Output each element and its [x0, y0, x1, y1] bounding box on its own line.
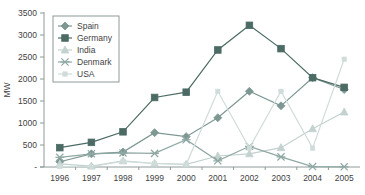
marker-dot: [279, 89, 283, 93]
chart-canvas: 350030002500200015001000500-MW1996199719…: [0, 0, 365, 195]
marker-square: [341, 84, 348, 91]
marker-square: [278, 45, 285, 52]
y-tick-label: -: [34, 162, 37, 172]
y-tick-label: 1500: [18, 96, 37, 106]
marker-triangle: [277, 144, 285, 151]
marker-square: [62, 35, 69, 42]
marker-dot: [216, 89, 220, 93]
marker-dot: [121, 159, 125, 163]
marker-square: [88, 139, 95, 146]
marker-square: [215, 47, 222, 54]
legend-item-germany[interactable]: Germany: [58, 33, 113, 43]
legend-label-usa: USA: [77, 69, 95, 79]
y-tick-label: 3500: [18, 8, 37, 18]
legend-label-denmark: Denmark: [77, 57, 112, 67]
marker-diamond: [151, 129, 159, 137]
legend: SpainGermanyIndiaDenmarkUSA: [53, 16, 119, 82]
marker-dot: [58, 164, 62, 168]
y-axis-title: MW: [2, 82, 12, 97]
x-tick-label: 2000: [177, 173, 196, 183]
x-tick-label: 2001: [208, 173, 227, 183]
legend-label-india: India: [77, 45, 96, 55]
series-india: [56, 108, 348, 169]
y-tick-label: 2000: [18, 74, 37, 84]
x-tick-label: 1996: [50, 173, 69, 183]
marker-square: [151, 94, 158, 101]
x-tick-label: 2002: [240, 173, 259, 183]
marker-dot: [247, 146, 251, 150]
marker-dot: [63, 72, 67, 76]
x-tick-label: 2003: [272, 173, 291, 183]
marker-square: [57, 144, 64, 151]
y-tick-label: 3000: [18, 30, 37, 40]
series-line-spain: [60, 78, 344, 162]
legend-label-germany: Germany: [77, 33, 113, 43]
marker-square: [120, 129, 127, 136]
x-tick-label: 1999: [145, 173, 164, 183]
marker-triangle: [340, 108, 348, 115]
marker-diamond: [119, 148, 127, 156]
y-tick-label: 1000: [18, 118, 37, 128]
marker-triangle: [309, 125, 317, 132]
marker-square: [183, 89, 190, 96]
x-tick-label: 2005: [335, 173, 354, 183]
marker-dot: [184, 162, 188, 166]
marker-dot: [152, 161, 156, 165]
marker-square: [309, 74, 316, 81]
marker-square: [246, 22, 253, 29]
wind-capacity-line-chart: 350030002500200015001000500-MW1996199719…: [0, 0, 365, 195]
marker-dot: [342, 57, 346, 61]
y-tick-label: 2500: [18, 52, 37, 62]
y-tick-label: 500: [23, 140, 37, 150]
legend-item-spain[interactable]: Spain: [58, 21, 99, 31]
marker-dot: [310, 146, 314, 150]
series-spain: [56, 74, 348, 166]
x-tick-label: 2004: [303, 173, 322, 183]
legend-label-spain: Spain: [77, 21, 99, 31]
x-tick-label: 1998: [114, 173, 133, 183]
marker-dot: [89, 164, 93, 168]
series-line-denmark: [60, 140, 344, 167]
x-tick-label: 1997: [82, 173, 101, 183]
